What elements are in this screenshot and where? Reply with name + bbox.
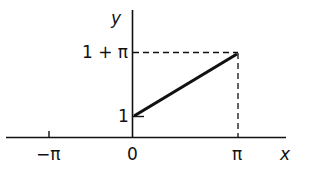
y-tick-label-one-plus-pi: 1 + π xyxy=(82,44,128,61)
y-axis-label: y xyxy=(111,10,121,27)
x-axis-label: x xyxy=(280,146,290,163)
y-tick-label-one: 1 xyxy=(118,108,129,125)
x-tick-label-zero: 0 xyxy=(127,146,138,163)
x-tick-label-neg-pi: −π xyxy=(36,146,60,163)
x-tick-label-pi: π xyxy=(232,146,242,163)
data-line xyxy=(134,54,237,116)
